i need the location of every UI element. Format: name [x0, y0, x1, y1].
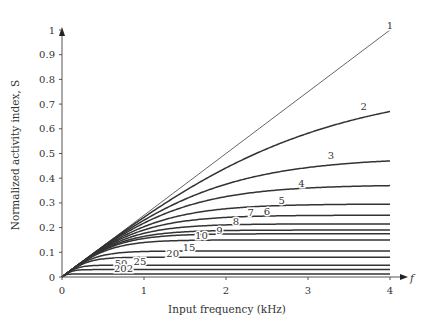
y-tick-label: 0: [49, 272, 55, 283]
curve-label-9: 9: [216, 225, 222, 236]
curve-label-2: 2: [361, 101, 367, 112]
y-tick-label: 0.3: [39, 197, 55, 208]
curve-label-25: 25: [134, 256, 147, 267]
x-tick-label: 1: [141, 285, 147, 296]
curve-label-15: 15: [183, 242, 196, 253]
curve-label-10: 10: [195, 230, 208, 241]
y-tick-label: 0.4: [39, 173, 55, 184]
curve-label-8: 8: [233, 216, 239, 227]
y-axis-title: Normalized activity index, S: [9, 80, 21, 231]
x-axis-arrow-icon: [400, 274, 408, 280]
curve-labels-group: 1234567891015202550202: [114, 20, 393, 274]
x-tick-label: 2: [223, 285, 229, 296]
x-tick-label: 4: [387, 285, 393, 296]
activity-index-chart: 00.10.20.30.40.50.60.70.80.9101234 12345…: [0, 0, 438, 333]
curve-label-3: 3: [328, 150, 334, 161]
curve-25: [62, 265, 390, 277]
y-tick-label: 0.8: [39, 74, 55, 85]
y-tick-label: 0.1: [39, 247, 55, 258]
curve-label-20: 20: [166, 248, 179, 259]
y-tick-label: 1: [49, 25, 55, 36]
y-tick-label: 0.5: [39, 148, 55, 159]
curve-15: [62, 251, 390, 277]
x-tick-label: 3: [305, 285, 311, 296]
curve-2: [62, 112, 390, 277]
x-tick-label: 0: [59, 285, 65, 296]
y-axis-arrow-icon: [59, 27, 65, 36]
x-axis-symbol: f: [409, 272, 416, 284]
curve-3: [62, 161, 390, 277]
y-tick-label: 0.6: [39, 123, 55, 134]
curve-label-202: 202: [114, 263, 133, 274]
y-tick-label: 0.7: [39, 99, 55, 110]
curve-label-6: 6: [264, 206, 270, 217]
curve-label-7: 7: [247, 207, 253, 218]
curve-4: [62, 186, 390, 277]
curves-group: [62, 30, 390, 277]
curve-label-4: 4: [298, 178, 304, 189]
y-tick-label: 0.9: [39, 49, 55, 60]
y-tick-label: 0.2: [39, 222, 55, 233]
curve-label-5: 5: [279, 195, 285, 206]
x-axis-title: Input frequency (kHz): [168, 303, 286, 315]
curve-label-1: 1: [387, 20, 393, 31]
